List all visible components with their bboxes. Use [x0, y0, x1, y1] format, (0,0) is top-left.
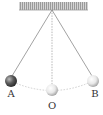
ball-a [5, 75, 17, 87]
label-b: B [91, 88, 98, 99]
pendulum-diagram: A O B [0, 0, 103, 115]
ceiling-support [19, 2, 88, 10]
label-a: A [6, 88, 15, 99]
label-o: O [48, 100, 56, 111]
ball-b [87, 75, 99, 87]
string-a [12, 10, 52, 76]
ball-o [46, 84, 58, 96]
string-b [52, 10, 92, 76]
